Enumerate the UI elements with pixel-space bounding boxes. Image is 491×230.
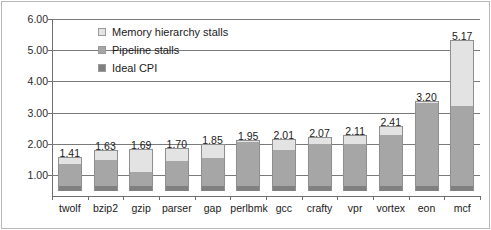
legend-label: Pipeline stalls [112,44,179,56]
segment-pipeline-stalls [380,135,402,186]
x-axis-label-parser: parser [159,202,195,214]
bar-value-label-eon: 3.20 [403,92,451,103]
segment-memory-hierarchy-stalls [202,144,224,160]
y-axis-labels: 1.002.003.004.005.006.00 [0,0,48,230]
segment-ideal-cpi [273,186,295,191]
y-tick-label: 6.00 [4,14,48,25]
bar-value-label-mcf: 5.17 [438,31,486,42]
x-tick-mark [52,196,53,200]
segment-memory-hierarchy-stalls [130,149,152,173]
x-tick-mark [159,196,160,200]
segment-pipeline-stalls [130,172,152,186]
x-tick-mark [123,196,124,200]
x-tick-mark [480,196,481,200]
segment-pipeline-stalls [309,144,331,186]
legend-swatch-memory-icon [98,28,106,36]
segment-pipeline-stalls [202,158,224,185]
chart-legend: Memory hierarchy stalls Pipeline stalls … [98,24,228,78]
legend-item-memory-hierarchy-stalls: Memory hierarchy stalls [98,24,228,39]
x-axis-label-gzip: gzip [123,202,159,214]
segment-ideal-cpi [451,186,473,191]
x-axis-label-mcf: mcf [444,202,480,214]
y-tick-label: 1.00 [4,170,48,181]
x-axis-label-crafty: crafty [302,202,338,214]
x-axis-label-vpr: vpr [337,202,373,214]
y-tick-mark [48,50,52,51]
legend-label: Memory hierarchy stalls [112,26,228,38]
segment-memory-hierarchy-stalls [166,148,188,162]
x-tick-mark [195,196,196,200]
legend-item-ideal-cpi: Ideal CPI [98,60,228,75]
y-tick-label: 5.00 [4,45,48,56]
legend-swatch-pipeline-icon [98,46,106,54]
y-tick-mark [48,175,52,176]
y-tick-label: 3.00 [4,108,48,119]
legend-item-pipeline-stalls: Pipeline stalls [98,42,228,57]
segment-ideal-cpi [380,186,402,191]
segment-pipeline-stalls [59,164,81,186]
x-axis-label-bzip2: bzip2 [88,202,124,214]
x-axis-label-perlbmk: perlbmk [230,202,266,214]
x-axis-label-vortex: vortex [373,202,409,214]
segment-ideal-cpi [237,186,259,191]
segment-ideal-cpi [416,186,438,191]
x-axis-label-twolf: twolf [52,202,88,214]
bar-vpr [343,135,367,191]
segment-pipeline-stalls [273,150,295,186]
bar-parser [165,148,189,191]
x-tick-mark [230,196,231,200]
x-tick-mark [88,196,89,200]
segment-ideal-cpi [202,186,224,191]
segment-ideal-cpi [344,186,366,191]
y-tick-label: 2.00 [4,139,48,150]
segment-pipeline-stalls [237,142,259,186]
y-tick-mark [48,19,52,20]
bar-twolf [58,157,82,191]
legend-swatch-ideal-cpi-icon [98,64,106,72]
x-axis-label-eon: eon [409,202,445,214]
segment-pipeline-stalls [451,106,473,186]
cpi-stacked-bar-chart: 1.002.003.004.005.006.00 twolfbzip2gzipp… [0,0,491,230]
gridline [52,19,480,20]
segment-ideal-cpi [95,186,117,191]
y-tick-mark [48,144,52,145]
y-tick-label: 4.00 [4,76,48,87]
segment-ideal-cpi [309,186,331,191]
x-axis-label-gcc: gcc [266,202,302,214]
segment-memory-hierarchy-stalls [451,40,473,107]
segment-pipeline-stalls [416,103,438,186]
bar-vortex [379,126,403,191]
x-tick-mark [337,196,338,200]
bar-gcc [272,139,296,191]
y-tick-mark [48,81,52,82]
bar-bzip2 [94,150,118,191]
bar-gap [201,144,225,191]
bar-mcf [450,40,474,191]
x-axis-label-gap: gap [195,202,231,214]
segment-pipeline-stalls [166,161,188,185]
gridline [52,81,480,82]
segment-ideal-cpi [130,186,152,191]
bar-perlbmk [236,140,260,191]
segment-ideal-cpi [166,186,188,191]
x-tick-mark [373,196,374,200]
segment-pipeline-stalls [344,144,366,186]
x-tick-mark [302,196,303,200]
x-tick-mark [266,196,267,200]
bar-crafty [308,137,332,191]
segment-pipeline-stalls [95,160,117,186]
bar-value-label-vpr: 2.11 [331,126,379,137]
y-tick-mark [48,113,52,114]
x-tick-mark [409,196,410,200]
bar-eon [415,101,439,191]
bar-gzip [129,149,153,191]
legend-label: Ideal CPI [112,62,157,74]
segment-ideal-cpi [59,186,81,191]
bar-value-label-vortex: 2.41 [367,117,415,128]
x-tick-mark [444,196,445,200]
